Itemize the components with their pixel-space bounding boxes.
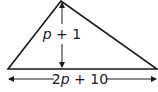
triangle-diagram: p + 1 2p + 10 [0,0,158,92]
triangle [8,1,157,69]
base-label: 2p + 10 [52,71,108,87]
height-label: p + 1 [42,26,81,42]
